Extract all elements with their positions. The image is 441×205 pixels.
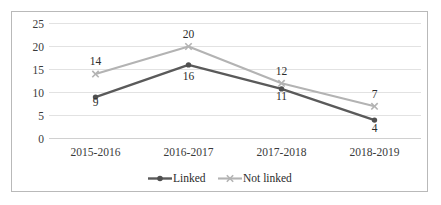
y-tick-5: 5 bbox=[38, 110, 44, 122]
data-label-linked-0: 9 bbox=[93, 96, 99, 108]
legend-label-linked: Linked bbox=[173, 172, 206, 184]
legend-marker-linked bbox=[157, 176, 163, 182]
data-label-not-linked-3: 7 bbox=[372, 88, 378, 100]
y-tick-10: 10 bbox=[33, 87, 45, 99]
x-tick-3: 2018-2019 bbox=[350, 146, 400, 158]
chart-legend: Linked Not linked bbox=[148, 172, 292, 184]
data-label-linked-1: 16 bbox=[183, 70, 195, 82]
legend-item-not-linked[interactable]: Not linked bbox=[218, 172, 292, 184]
data-label-not-linked-2: 12 bbox=[276, 65, 288, 77]
legend-label-not-linked: Not linked bbox=[243, 172, 292, 184]
y-tick-25: 25 bbox=[33, 18, 45, 30]
chart-canvas: 25 20 15 10 5 0 bbox=[0, 0, 441, 205]
data-label-linked-3: 4 bbox=[372, 122, 378, 134]
x-tick-1: 2016-2017 bbox=[164, 146, 214, 158]
y-tick-20: 20 bbox=[33, 41, 45, 53]
gridlines bbox=[49, 24, 421, 139]
marker-linked-1 bbox=[186, 62, 191, 67]
x-axis-tick-labels: 2015-2016 2016-2017 2017-2018 2018-2019 bbox=[71, 146, 400, 158]
y-axis-tick-labels: 25 20 15 10 5 0 bbox=[33, 18, 45, 145]
y-tick-0: 0 bbox=[38, 133, 44, 145]
data-label-not-linked-0: 14 bbox=[90, 55, 102, 67]
y-tick-15: 15 bbox=[33, 64, 45, 76]
legend-item-linked[interactable]: Linked bbox=[148, 172, 206, 184]
x-tick-0: 2015-2016 bbox=[71, 146, 121, 158]
data-label-linked-2: 11 bbox=[276, 90, 287, 102]
line-chart: 25 20 15 10 5 0 bbox=[0, 0, 441, 205]
data-labels-linked: 9 16 11 4 bbox=[93, 70, 378, 134]
x-tick-2: 2017-2018 bbox=[257, 146, 307, 158]
data-label-not-linked-1: 20 bbox=[183, 28, 195, 40]
